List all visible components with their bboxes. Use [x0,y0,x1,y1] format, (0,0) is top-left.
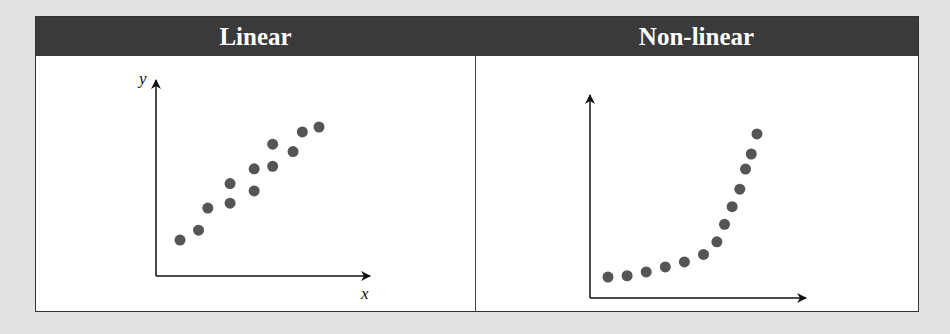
data-point [202,203,213,214]
data-point [288,146,299,157]
data-point [249,185,260,196]
data-point [193,225,204,236]
data-point [711,236,722,247]
data-point [267,139,278,150]
data-point [727,201,738,212]
data-point [641,266,652,277]
data-point [746,149,757,160]
y-axis-label: y [137,69,147,88]
data-point [734,184,745,195]
x-axis-label: x [360,284,369,303]
data-point [751,128,762,139]
data-point [603,272,614,283]
data-point [660,261,671,272]
data-point [175,235,186,246]
nonlinear-plot [590,95,806,298]
data-point [698,249,709,260]
data-point [314,122,325,133]
data-point [249,163,260,174]
scatter-plots: y x [0,0,950,334]
data-point [225,198,236,209]
data-point [679,256,690,267]
data-point [740,164,751,175]
data-point [622,270,633,281]
data-point [719,219,730,230]
data-point [267,161,278,172]
data-point [297,126,308,137]
linear-plot: y x [137,69,370,303]
data-point [225,178,236,189]
